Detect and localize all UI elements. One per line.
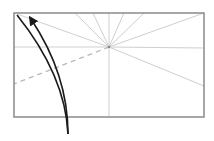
crease-line	[109, 47, 204, 48]
center-point	[108, 46, 110, 48]
fold-arrow-outer-icon	[17, 15, 68, 134]
crease-lines	[14, 13, 204, 117]
origami-fold-diagram	[0, 0, 214, 141]
crease-line	[17, 14, 109, 47]
crease-line	[75, 13, 109, 47]
crease-line	[109, 47, 204, 86]
crease-line	[109, 13, 144, 47]
crease-line	[109, 13, 124, 47]
valley-fold-dashed-line	[14, 47, 109, 84]
crease-line	[109, 13, 204, 47]
